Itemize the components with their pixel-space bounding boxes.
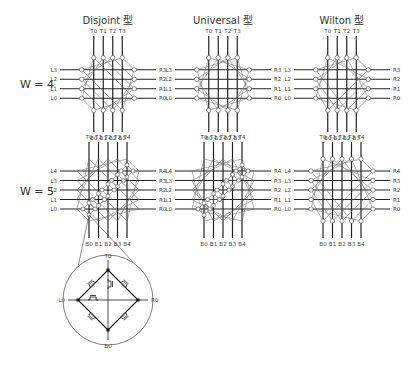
switch-node — [216, 56, 220, 60]
pin-label-top: T1 — [209, 134, 217, 140]
switch-node — [97, 204, 101, 208]
switch-node — [240, 175, 244, 179]
switch-node — [106, 182, 110, 186]
pin-label-left: L0 — [50, 95, 57, 101]
pin-label-left: L1 — [50, 197, 57, 203]
switch-node — [235, 56, 239, 60]
pin-label-left: L2 — [50, 76, 57, 82]
switch-node — [330, 219, 334, 223]
column-title-universal: Universal 型 — [193, 14, 253, 26]
pin-label-right: R2 — [274, 187, 281, 193]
switch-node — [207, 108, 211, 112]
pin-label-top: T3 — [113, 134, 121, 140]
switch-node — [196, 207, 200, 211]
switch-node — [87, 201, 91, 205]
switch-node — [92, 108, 96, 112]
switch-node — [120, 56, 124, 60]
switch-box-diagram: Disjoint 型 Universal 型 Wilton 型 W = 4 W … — [0, 0, 413, 368]
switch-node — [354, 108, 358, 112]
switch-node — [314, 96, 318, 100]
switch-node — [97, 192, 101, 196]
switch-node — [234, 169, 238, 173]
column-title-disjoint: Disjoint 型 — [83, 14, 134, 26]
pin-label-bottom: B3 — [348, 241, 356, 247]
pass-transistor-icon — [108, 279, 113, 289]
switch-node — [80, 68, 84, 72]
switch-node — [112, 188, 116, 192]
pin-label-left: L2 — [165, 76, 172, 82]
switch-node — [92, 56, 96, 60]
switch-node — [202, 213, 206, 217]
pin-label-top: T0 — [85, 134, 93, 140]
pin-label-left: L4 — [284, 168, 291, 174]
switch-node — [207, 56, 211, 60]
switch-node — [330, 157, 334, 161]
pin-label-left: L3 — [284, 178, 291, 184]
pin-label-right: R3 — [274, 178, 282, 184]
switch-node — [349, 157, 353, 161]
switch-node — [309, 197, 313, 201]
switch-node — [240, 163, 244, 167]
pin-label-top: T2 — [342, 28, 350, 34]
switch-node — [195, 96, 199, 100]
switch-node — [335, 56, 339, 60]
switch-node — [195, 68, 199, 72]
switch-node — [231, 185, 235, 189]
pin-label-top: T1 — [94, 134, 102, 140]
row-label-w5: W = 5 — [20, 185, 54, 198]
switch-node — [226, 108, 230, 112]
switch-node — [212, 204, 216, 208]
switch-node — [309, 169, 313, 173]
pin-label-left: L2 — [284, 187, 291, 193]
switch-node — [208, 207, 212, 211]
column-title-wilton: Wilton 型 — [320, 14, 365, 26]
pin-label-left: L0 — [284, 95, 291, 101]
switch-node — [216, 108, 220, 112]
pin-label-right: R3 — [274, 67, 282, 73]
switch-node — [206, 198, 210, 202]
switch-node — [314, 68, 318, 72]
pin-label-top: T0 — [204, 28, 212, 34]
pin-label-left: L3 — [50, 178, 57, 184]
switch-node — [132, 96, 136, 100]
pin-label-bottom: B4 — [357, 241, 365, 247]
pin-label-top: T4 — [238, 134, 246, 140]
switch-node — [326, 108, 330, 112]
switch-node — [237, 179, 241, 183]
switch-node — [116, 185, 120, 189]
switch-node — [371, 197, 375, 201]
switch-node — [110, 179, 114, 183]
switch-node — [131, 169, 135, 173]
switch-node — [132, 68, 136, 72]
pin-label-top: T4 — [123, 134, 131, 140]
switch-node — [246, 169, 250, 173]
switch-node — [309, 178, 313, 182]
pin-label-left: L2 — [50, 187, 57, 193]
switch-node — [340, 219, 344, 223]
switch-node — [371, 188, 375, 192]
pin-label-bottom: B0 — [319, 241, 327, 247]
pin-label-top: T0 — [319, 134, 327, 140]
pin-label-right: R1 — [274, 197, 281, 203]
switch-node — [366, 68, 370, 72]
switch-node — [326, 56, 330, 60]
pass-transistor-icon — [88, 296, 98, 301]
switch-box-wilton-w4: T0B0T1B1T2B2T3B3L3R3L2R2L1R1L0R0 — [284, 28, 400, 141]
switch-box-wilton-w5: T0B0T1B1T2B2T3B3T4B4L4R4L3R3L2R2L1R1L0R0 — [284, 134, 400, 247]
pin-label-top: T1 — [214, 28, 222, 34]
pin-label-top: T1 — [333, 28, 341, 34]
switch-node — [215, 188, 219, 192]
pin-label-left: L3 — [50, 67, 57, 73]
switch-node — [371, 207, 375, 211]
detail-label-bottom: B0 — [104, 343, 112, 349]
switch-node — [93, 207, 97, 211]
switch-box-disjoint-w5: T0B0T1B1T2B2T3B3T4B4L4R4L3R3L2R2L1R1L0R0 — [50, 134, 166, 247]
detail-label-right: R0 — [151, 297, 159, 303]
switch-node — [221, 194, 225, 198]
switch-node — [314, 77, 318, 81]
pin-label-left: L1 — [165, 86, 172, 92]
switch-node — [309, 188, 313, 192]
switch-node — [235, 108, 239, 112]
pin-label-left: L1 — [165, 197, 172, 203]
switch-node — [314, 87, 318, 91]
